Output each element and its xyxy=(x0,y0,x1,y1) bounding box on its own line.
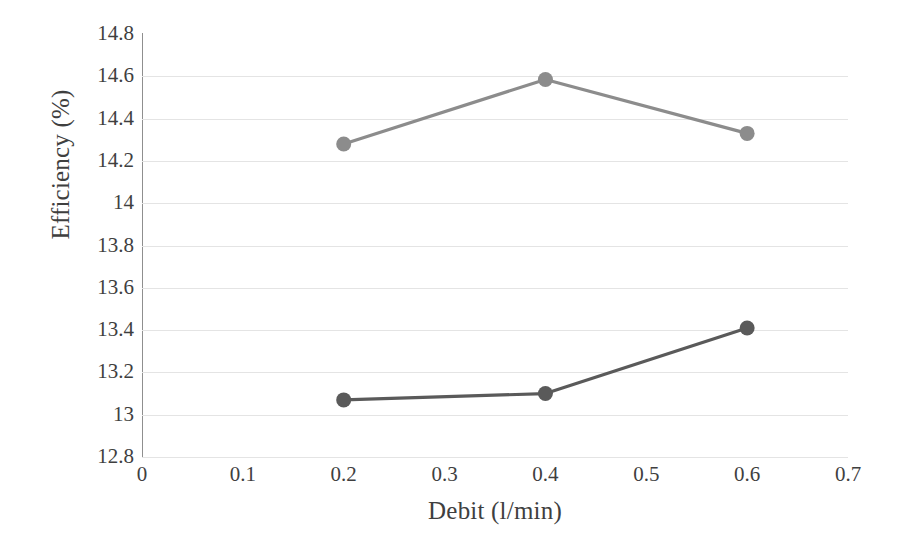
x-axis-title: Debit (l/min) xyxy=(142,498,848,523)
data-point-marker xyxy=(740,320,755,335)
x-tick-label: 0.2 xyxy=(304,464,384,485)
x-tick-label: 0.1 xyxy=(203,464,283,485)
data-point-marker xyxy=(538,386,553,401)
y-tick-label: 14.8 xyxy=(50,23,134,44)
y-tick-label: 13.2 xyxy=(50,361,134,382)
x-tick-label: 0.5 xyxy=(606,464,686,485)
data-point-marker xyxy=(740,126,755,141)
x-tick-label: 0.6 xyxy=(707,464,787,485)
series-lower-series xyxy=(336,320,754,407)
x-tick-label: 0.7 xyxy=(808,464,888,485)
y-tick-label: 14.2 xyxy=(50,150,134,171)
y-tick-label: 13.4 xyxy=(50,319,134,340)
y-tick-label: 14.6 xyxy=(50,65,134,86)
y-tick-label: 13 xyxy=(50,404,134,425)
series-line xyxy=(344,79,747,144)
series-upper-series xyxy=(336,72,754,152)
y-tick-label: 13.6 xyxy=(50,277,134,298)
y-tick-label: 14 xyxy=(50,192,134,213)
data-point-marker xyxy=(336,136,351,151)
gridline xyxy=(142,457,848,458)
y-tick-label: 13.8 xyxy=(50,235,134,256)
x-tick-label: 0 xyxy=(102,464,182,485)
x-tick-label: 0.4 xyxy=(505,464,585,485)
series-layer xyxy=(142,34,848,457)
data-point-marker xyxy=(336,392,351,407)
y-tick-label: 14.4 xyxy=(50,108,134,129)
line-chart: Efficiency (%) 14.814.614.414.21413.813.… xyxy=(0,0,898,556)
data-point-marker xyxy=(538,72,553,87)
plot-area xyxy=(142,34,848,457)
x-tick-label: 0.3 xyxy=(405,464,485,485)
